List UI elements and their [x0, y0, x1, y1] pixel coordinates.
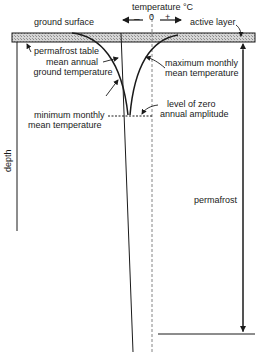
min-monthly-pointer — [106, 80, 118, 96]
ground-surface-label: ground surface — [34, 17, 94, 27]
max-monthly-pointer — [146, 57, 165, 68]
max-monthly-label-1: maximum monthly — [165, 58, 238, 68]
temperature-axis-title: temperature °C — [132, 2, 193, 12]
permafrost-label: permafrost — [194, 195, 237, 205]
mean-annual-label-2: ground temperature — [28, 67, 118, 77]
zero-label: 0 — [149, 12, 154, 22]
zero-amplitude-label-1: level of zero — [167, 99, 216, 109]
min-monthly-label-1: minimum monthly — [34, 110, 105, 120]
permafrost-table-pointer — [27, 44, 31, 52]
depth-axis-label: depth — [3, 149, 13, 172]
active-layer-band — [12, 33, 255, 42]
minus-label: – — [134, 14, 140, 24]
active-layer-label: active layer — [190, 17, 236, 27]
zero-amplitude-pointer — [142, 105, 158, 114]
min-monthly-label-2: mean temperature — [28, 120, 102, 130]
max-monthly-label-2: mean temperature — [165, 68, 239, 78]
mean-annual-temperature-line — [121, 33, 133, 352]
permafrost-temperature-diagram: temperature °C – 0 + ground surface acti… — [0, 0, 260, 355]
zero-amplitude-label-2: annual amplitude — [160, 109, 229, 119]
plus-label: + — [165, 12, 170, 22]
permafrost-table-label: permafrost table — [34, 46, 99, 56]
mean-annual-label-1: mean annual — [32, 57, 112, 67]
